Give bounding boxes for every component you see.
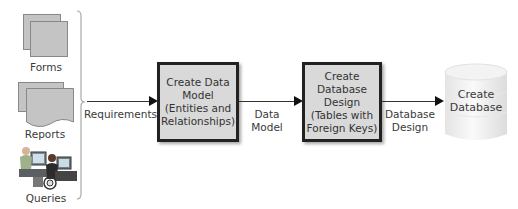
step2-line5: Foreign Keys) [307,122,378,135]
people-at-computers-icon [19,143,79,191]
step2-line4: (Tables with [307,109,378,122]
reports-label: Reports [18,128,72,141]
queries-label: Queries [22,192,70,205]
data-model-label-line2: Model [242,121,292,134]
reports-document-front-icon [26,88,74,128]
requirements-label: Requirements [84,108,154,121]
data-model-arrow-line [239,101,295,102]
data-model-label: Data Model [242,108,292,134]
create-database-label: Create Database [443,88,509,114]
step2-line1: Create [307,70,378,83]
create-database-line2: Database [443,101,509,114]
database-design-label-line2: Design [382,121,438,134]
step1-line3: (Entities and [161,102,235,115]
step2-line2: Database [307,83,378,96]
database-design-label: Database Design [382,108,438,134]
grouping-brace [76,10,88,200]
step1-line1: Create Data [161,76,235,89]
forms-label: Forms [24,61,68,74]
create-database-design-step: Create Database Design (Tables with Fore… [302,62,382,142]
database-design-label-line1: Database [382,108,438,121]
create-database-line1: Create [443,88,509,101]
requirements-arrow-line [87,101,150,102]
forms-document-front-icon [30,21,68,57]
step2-line3: Design [307,96,378,109]
database-design-arrow-line [382,101,436,102]
data-model-label-line1: Data [242,108,292,121]
create-data-model-step: Create Data Model (Entities and Relation… [157,62,239,142]
step1-line2: Model [161,89,235,102]
step1-line4: Relationships) [161,115,235,128]
